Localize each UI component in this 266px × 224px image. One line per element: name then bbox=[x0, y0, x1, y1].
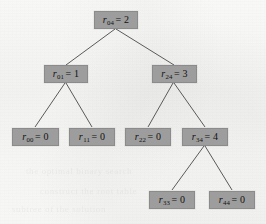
edge-r01-r00 bbox=[35, 83, 65, 127]
edge-r24-r22 bbox=[148, 83, 173, 127]
tree-diagram: the optimal binary search construct the … bbox=[0, 0, 266, 224]
tree-node-r24-label: r24= 3 bbox=[161, 69, 188, 79]
tree-node-r11[interactable]: r11= 0 bbox=[69, 128, 115, 146]
tree-node-r33-label: r33= 0 bbox=[159, 195, 186, 205]
tree-node-r01[interactable]: r01= 1 bbox=[44, 65, 88, 83]
tree-node-r33[interactable]: r33= 0 bbox=[149, 191, 195, 209]
tree-node-r24[interactable]: r24= 3 bbox=[152, 65, 197, 83]
edge-r24-r34 bbox=[174, 83, 205, 127]
tree-node-r22[interactable]: r22= 0 bbox=[125, 128, 171, 146]
edge-r01-r11 bbox=[66, 83, 92, 127]
edge-r34-r33 bbox=[172, 146, 204, 190]
tree-node-r34-label: r34= 4 bbox=[192, 132, 219, 142]
tree-node-r11-label: r11= 0 bbox=[79, 132, 105, 142]
tree-node-r00[interactable]: r00= 0 bbox=[12, 128, 59, 146]
tree-node-r04-label: r04= 2 bbox=[103, 15, 130, 25]
tree-node-r22-label: r22= 0 bbox=[135, 132, 162, 142]
tree-node-r04[interactable]: r04= 2 bbox=[94, 11, 138, 29]
tree-node-r34[interactable]: r34= 4 bbox=[182, 128, 228, 146]
tree-node-r00-label: r00= 0 bbox=[22, 132, 49, 142]
edge-r04-r24 bbox=[116, 29, 174, 65]
tree-node-r44[interactable]: r44= 0 bbox=[209, 191, 255, 209]
tree-node-r01-label: r01= 1 bbox=[53, 69, 80, 79]
edge-r04-r01 bbox=[66, 29, 115, 65]
tree-node-r44-label: r44= 0 bbox=[219, 195, 246, 205]
edge-r34-r44 bbox=[205, 146, 232, 190]
